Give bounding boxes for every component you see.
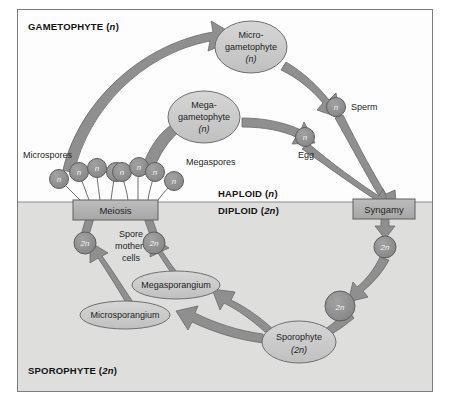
haploid-text: HAPLOID xyxy=(218,188,262,199)
cell-circle-spore-mother-cell-left[interactable]: 2n xyxy=(74,232,96,254)
megaspore-1-label: n xyxy=(120,168,125,177)
syngamy-label: Syngamy xyxy=(364,204,404,215)
cell-circle-sperm[interactable]: n xyxy=(327,98,346,117)
divider-label-haploid: HAPLOID (n) xyxy=(218,188,278,199)
megaspores-label: Megaspores xyxy=(186,157,236,167)
spore-mother-cells-line2: mother xyxy=(115,241,143,251)
cell-circle-zygote[interactable]: 2n xyxy=(374,236,396,258)
sporophyte-ploidy: (2n) xyxy=(291,345,307,355)
embryo-label: 2n xyxy=(335,303,345,312)
process-box-meiosis[interactable]: Meiosis xyxy=(73,200,158,220)
gametophyte-text: GAMETOPHYTE xyxy=(28,21,103,32)
microsporangium-label: Microsporangium xyxy=(90,310,159,320)
cell-circle-spore-mother-cell-right[interactable]: 2n xyxy=(143,232,165,254)
sperm-label: Sperm xyxy=(351,102,378,112)
megagametophyte-line1: Mega- xyxy=(191,100,217,110)
megaspore-4-label: n xyxy=(172,177,177,186)
sporophyte-label: Sporophyte xyxy=(276,332,322,342)
megaspore-3-label: n xyxy=(153,168,158,177)
microgametophyte-line2: gametophyte xyxy=(225,42,277,52)
microspore-3-label: n xyxy=(95,164,100,173)
cell-circle-egg[interactable]: n xyxy=(296,128,315,147)
haploid-ploidy: n xyxy=(268,188,274,199)
diagram-frame: Meiosis Syngamy Micro- gametophyte (n) M… xyxy=(17,9,433,392)
gametophyte-ploidy: n xyxy=(110,21,116,32)
meiosis-label: Meiosis xyxy=(99,205,131,216)
cell-circle-microspore-3[interactable]: n xyxy=(88,159,107,178)
spore-mother-cell-left-label: 2n xyxy=(80,239,90,248)
arrow-egg-to-syngamy xyxy=(302,143,388,202)
ellipse-megasporangium[interactable]: Megasporangium xyxy=(132,271,220,299)
divider-label-diploid: DIPLOID (2n) xyxy=(218,205,279,216)
megasporangium-label: Megasporangium xyxy=(141,280,211,290)
cell-circle-embryo[interactable]: 2n xyxy=(325,291,355,321)
ellipse-sporophyte[interactable]: Sporophyte (2n) xyxy=(262,321,336,363)
microspore-1-label: n xyxy=(57,175,62,184)
ellipse-microsporangium[interactable]: Microsporangium xyxy=(80,301,170,329)
cell-circle-megaspore-1[interactable]: n xyxy=(113,163,132,182)
zone-label-gametophyte: GAMETOPHYTE (n) xyxy=(28,21,119,32)
zone-label-sporophyte: SPOROPHYTE (2n) xyxy=(28,365,117,376)
microspore-2-label: n xyxy=(77,168,82,177)
spore-mother-cell-right-label: 2n xyxy=(149,239,159,248)
megaspore-2-label: n xyxy=(137,163,142,172)
ellipse-megagametophyte[interactable]: Mega- gametophyte (n) xyxy=(168,91,240,143)
microgametophyte-line1: Micro- xyxy=(239,30,264,40)
sporophyte-zone-ploidy: 2n xyxy=(102,365,114,376)
egg-circle-label: n xyxy=(303,133,308,142)
cell-circle-megaspore-4[interactable]: n xyxy=(165,172,184,191)
ellipse-microgametophyte[interactable]: Micro- gametophyte (n) xyxy=(215,21,287,73)
cell-circle-microspore-2[interactable]: n xyxy=(70,163,89,182)
megagametophyte-ploidy: (n) xyxy=(199,124,210,134)
microgametophyte-ploidy: (n) xyxy=(246,54,257,64)
megagametophyte-line2: gametophyte xyxy=(178,112,230,122)
cell-circle-microspore-1[interactable]: n xyxy=(50,170,69,189)
zygote-label: 2n xyxy=(380,243,390,252)
cell-circle-megaspore-3[interactable]: n xyxy=(146,163,165,182)
process-box-syngamy[interactable]: Syngamy xyxy=(353,199,415,219)
life-cycle-svg: Meiosis Syngamy Micro- gametophyte (n) M… xyxy=(18,10,433,392)
spore-mother-cells-line1: Spore xyxy=(119,229,143,239)
diploid-ploidy: 2n xyxy=(264,205,276,216)
diagram-canvas: Meiosis Syngamy Micro- gametophyte (n) M… xyxy=(0,0,450,404)
microspores-label: Microspores xyxy=(23,150,73,160)
spore-mother-cells-line3: cells xyxy=(122,253,141,263)
sporophyte-text: SPOROPHYTE xyxy=(28,365,96,376)
sperm-circle-label: n xyxy=(334,103,339,112)
egg-label: Egg xyxy=(298,150,314,160)
diploid-text: DIPLOID xyxy=(218,205,258,216)
